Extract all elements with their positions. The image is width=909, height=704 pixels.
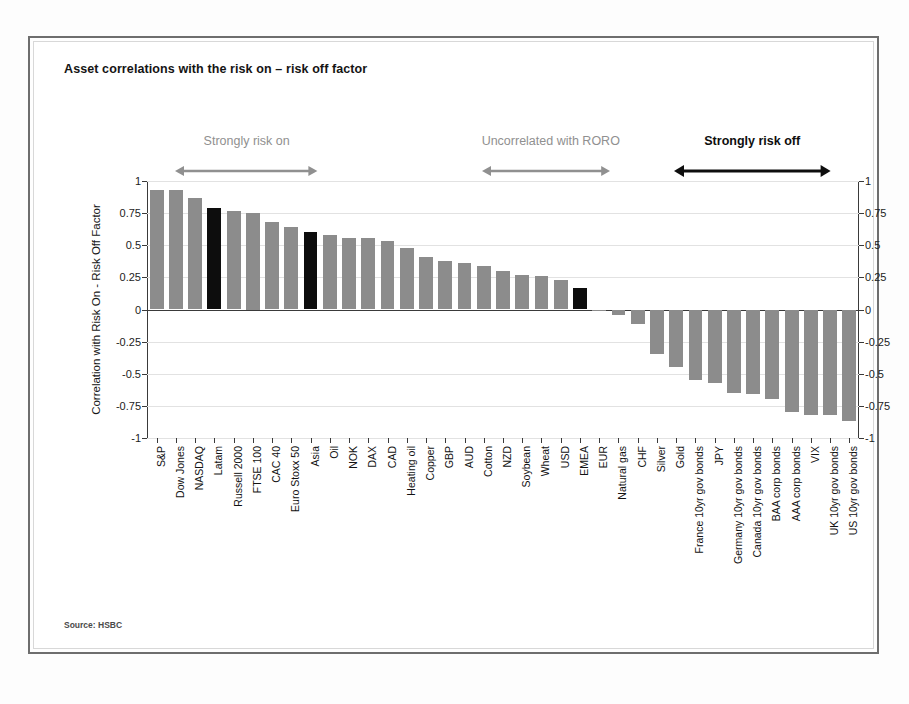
x-tick-mark [580,438,581,443]
x-tick-label: Cotton [482,446,494,477]
figure-frame: Asset correlations with the risk on – ri… [28,36,879,654]
annotation-double-arrow [482,164,610,178]
x-tick-mark [272,438,273,443]
y-tick-label-left: 0.25 [120,271,141,283]
x-tick-label: EUR [597,446,609,468]
y-tick-label-left: -0.25 [116,336,141,348]
y-tick-label-left: 0.5 [126,239,141,251]
x-tick-label: Silver [655,446,667,472]
x-tick-label: Russell 2000 [232,446,244,507]
x-tick-label-wrap: EUR [603,424,615,446]
y-tick-mark [142,438,147,439]
y-tick-label-right: 0.25 [865,271,886,283]
x-tick-label-wrap: CAD [392,424,404,446]
y-tick-mark [859,342,864,343]
x-tick-label-wrap: NZD [507,424,519,446]
y-tick-label-left: 0 [135,304,141,316]
x-tick-mark [811,438,812,443]
x-tick-label-wrap: CHF [642,424,654,446]
x-tick-mark [407,438,408,443]
x-tick-label-wrap: USD [565,424,577,446]
x-tick-mark [311,438,312,443]
x-tick-label: GBP [443,446,455,468]
y-tick-label-left: -0.75 [116,400,141,412]
x-tick-label: USD [559,446,571,468]
x-tick-label: S&P [155,446,167,467]
figure-inner-border: Asset correlations with the risk on – ri… [33,41,874,649]
x-tick-mark [753,438,754,443]
x-tick-label-wrap: Natural gas [622,392,634,446]
x-tick-label: FTSE 100 [251,446,263,493]
x-tick-label: Heating oil [405,446,417,496]
x-tick-label-wrap: France 10yr gov bonds [699,339,711,446]
x-tick-label-wrap: Latam [218,417,230,446]
y-tick-label-left: -1 [131,432,141,444]
x-tick-label: EMEA [578,446,590,476]
bar [342,238,356,310]
x-tick-mark [234,438,235,443]
x-tick-mark [388,438,389,443]
bar [169,190,183,310]
bar [207,208,221,310]
x-tick-mark [618,438,619,443]
y-axis-title: Correlation with Risk On - Risk Off Fact… [90,181,106,438]
x-tick-label: JPY [713,446,725,465]
y-tick-mark [142,406,147,407]
bar [573,288,587,310]
bar [650,310,664,355]
y-tick-mark [859,277,864,278]
bar [284,227,298,309]
bar [188,198,202,310]
bar [150,190,164,310]
source-note: Source: HSBC [64,620,122,630]
x-tick-label: France 10yr gov bonds [693,446,705,553]
y-tick-mark [142,213,147,214]
bar [361,238,375,310]
x-tick-label-wrap: DAX [372,424,384,446]
bar [477,266,491,310]
x-tick-mark [291,438,292,443]
x-tick-label-wrap: Asia [315,426,327,446]
x-tick-mark [830,438,831,443]
x-tick-mark [522,438,523,443]
y-tick-label-right: 0.5 [865,239,880,251]
x-tick-label-wrap: NOK [353,423,365,446]
bar [612,310,626,315]
x-tick-label-wrap: Dow Jones [180,394,192,446]
x-tick-mark [157,438,158,443]
x-tick-label: UK 10yr gov bonds [828,446,840,535]
x-tick-label: Oil [328,446,340,459]
x-tick-label-wrap: Heating oil [411,396,423,446]
x-tick-label-wrap: EMEA [584,416,596,446]
x-tick-label-wrap: Wheat [545,416,557,446]
x-tick-mark [214,438,215,443]
x-tick-mark [561,438,562,443]
x-tick-label-wrap: BAA corp bonds [776,371,788,446]
bar [438,261,452,310]
x-tick-mark [253,438,254,443]
x-tick-label: CAD [386,446,398,468]
bar [400,248,414,310]
x-tick-label: Copper [424,446,436,480]
x-tick-label-wrap: Gold [680,424,692,446]
annotation-caption: Uncorrelated with RORO [482,134,610,148]
x-tick-mark [195,438,196,443]
x-tick-label: VIX [809,446,821,463]
x-tick-label-wrap: Silver [661,420,673,446]
y-tick-label-right: -1 [865,432,875,444]
x-tick-label: CAC 40 [270,446,282,483]
plot-area: 10.750.50.250-0.25-0.5-0.75-1 10.750.50.… [147,181,859,438]
x-tick-label-wrap: US 10yr gov bonds [853,357,865,446]
x-tick-label-wrap: Euro Stoxx 50 [295,380,307,446]
y-tick-mark [142,181,147,182]
x-tick-label-wrap: CAC 40 [276,409,288,446]
page-title: Asset correlations with the risk on – ri… [64,62,367,76]
x-tick-mark [445,438,446,443]
x-tick-mark [368,438,369,443]
y-tick-label-right: 0.75 [865,207,886,219]
x-tick-mark [792,438,793,443]
y-tick-mark [142,245,147,246]
x-tick-label: Latam [212,446,224,475]
bar [227,211,241,310]
bar [246,213,260,309]
